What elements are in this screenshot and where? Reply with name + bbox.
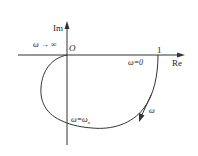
- imag-axis-arrow-icon: [65, 21, 70, 29]
- omega-x-label: ω=ωx: [71, 115, 91, 125]
- imag-axis-label: Im: [53, 23, 63, 33]
- origin-label: O: [69, 43, 76, 53]
- direction-arrow-icon: [139, 113, 145, 122]
- real-axis-arrow-icon: [177, 53, 185, 58]
- omega-infinity-label: ω → ∞: [33, 40, 57, 49]
- nyquist-diagram: Im Re O 1 ω → ∞ ω=0 ω=ωx ω: [0, 0, 198, 156]
- omega-zero-label: ω=0: [128, 58, 143, 67]
- real-axis-label: Re: [172, 58, 182, 68]
- real-tick-label-1: 1: [157, 45, 162, 55]
- direction-label: ω: [149, 106, 155, 115]
